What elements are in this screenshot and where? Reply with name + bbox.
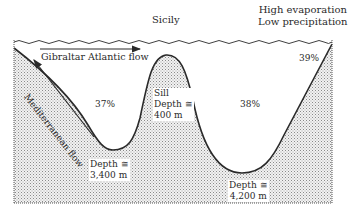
atlantic-flow-label: Gibraltar Atlantic flow (41, 51, 149, 62)
western-depth-line-2: 3,400 m (90, 170, 129, 181)
climate-line-2: Low precipitation (258, 16, 348, 28)
climate-line-1: High evaporation (258, 4, 348, 16)
eastern-depth-label: Depth ≅ 4,200 m (228, 180, 269, 202)
sill-depth-line-1: Depth ≅ (154, 99, 193, 110)
shelf-percent: 39% (299, 53, 319, 64)
eastern-depth-line-2: 4,200 m (229, 191, 268, 202)
sill-depth-line-2: 400 m (154, 110, 193, 121)
climate-label: High evaporation Low precipitation (258, 4, 348, 28)
sicily-label: Sicily (152, 14, 180, 25)
western-depth-label: Depth ≅ 3,400 m (89, 159, 130, 181)
western-depth-line-1: Depth ≅ (90, 159, 129, 170)
seafloor-stipple (14, 44, 332, 203)
sill-label: Sill Depth ≅ 400 m (153, 88, 194, 121)
eastern-basin-percent: 38% (240, 99, 260, 110)
eastern-depth-line-1: Depth ≅ (229, 180, 268, 191)
western-basin-percent: 37% (95, 99, 115, 110)
sea-surface-wave (14, 41, 332, 44)
sill-title: Sill (154, 88, 193, 99)
